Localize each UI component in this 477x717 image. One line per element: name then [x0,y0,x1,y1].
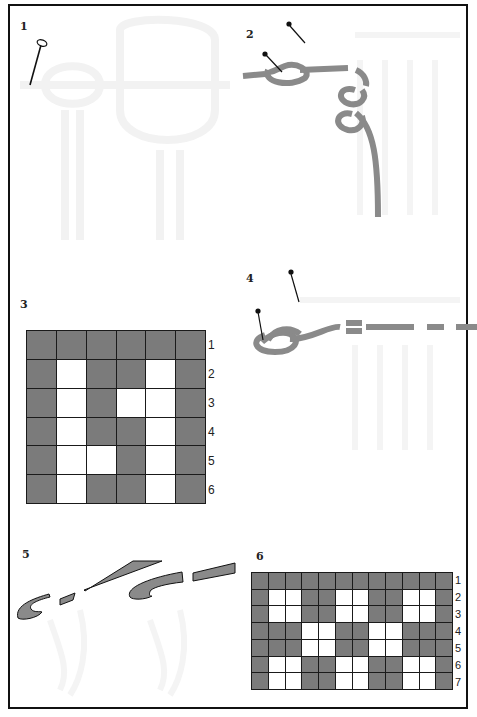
grid-cell [146,446,175,474]
grid-cell [117,360,146,388]
grid-cell [117,475,146,503]
row-label: 1 [208,330,215,359]
grid-cell [117,418,146,446]
grid-cell [319,673,335,689]
grid-cell [252,623,268,639]
row-label: 2 [455,589,461,606]
grid-cell [436,590,452,606]
grid-cell [353,673,369,689]
grid-cell [252,657,268,673]
grid-cell [27,418,56,446]
grid-cell [420,590,436,606]
grid-cell [319,590,335,606]
grid-cell [436,673,452,689]
grid-cell [403,640,419,656]
grid-cell [57,360,86,388]
grid-cell [319,640,335,656]
grid-cell [319,573,335,589]
grid-cell [336,640,352,656]
grid-cell [286,673,302,689]
grid-cell [319,623,335,639]
grid-cell [336,606,352,622]
grid-cell [369,623,385,639]
grid-cell [27,446,56,474]
grid-cell [87,360,116,388]
grid-cell [146,475,175,503]
grid-cell [302,623,318,639]
grid-cell [269,573,285,589]
row-label: 5 [455,639,461,656]
panel-label-4: 4 [246,272,254,285]
grid-cell [269,640,285,656]
grid-cell [353,657,369,673]
row-label: 3 [455,606,461,623]
grid-cell [27,389,56,417]
row-label: 7 [455,673,461,690]
grid-cell [269,623,285,639]
grid-cell [87,446,116,474]
grid-cell [302,606,318,622]
grid-cell [369,673,385,689]
grid-cell [176,475,205,503]
grid-cell [420,573,436,589]
panel-label-5: 5 [22,548,30,561]
grid-cell [436,606,452,622]
knot-diagram-4 [256,323,477,352]
grid-cell [403,590,419,606]
grid-cell [286,623,302,639]
grid-cell [420,657,436,673]
grid-cell [57,418,86,446]
grid-cell [176,418,205,446]
grid-cell [286,657,302,673]
grid-cell [420,673,436,689]
grid-cell [336,673,352,689]
grid-cell [269,590,285,606]
grid-cell [252,590,268,606]
grid-cell [319,606,335,622]
grid-cell [336,590,352,606]
grid-cell [57,389,86,417]
grid-cell [302,573,318,589]
grid-cell [436,640,452,656]
grid-cell [403,623,419,639]
grid-cell [386,573,402,589]
row-label: 3 [208,388,215,417]
grid-cell [286,640,302,656]
grid-cell [403,606,419,622]
row-label: 5 [208,446,215,475]
pattern-grid-3-row-labels: 123456 [208,330,215,504]
row-label: 4 [208,417,215,446]
grid-cell [87,389,116,417]
row-label: 4 [455,623,461,640]
grid-cell [252,573,268,589]
grid-cell [176,360,205,388]
grid-cell [57,446,86,474]
grid-cell [302,673,318,689]
grid-cell [420,640,436,656]
grid-cell [353,573,369,589]
grid-cell [87,475,116,503]
pattern-grid-6-row-labels: 1234567 [455,572,461,690]
grid-cell [57,331,86,359]
grid-cell [336,623,352,639]
grid-cell [176,446,205,474]
cord-ends-diagram-5 [18,561,235,619]
row-label: 1 [455,572,461,589]
grid-cell [252,640,268,656]
grid-cell [176,331,205,359]
grid-cell [269,606,285,622]
grid-cell [386,590,402,606]
grid-cell [369,657,385,673]
grid-cell [436,573,452,589]
pattern-grid-6 [251,572,453,690]
grid-cell [27,331,56,359]
grid-cell [403,657,419,673]
grid-cell [369,590,385,606]
grid-cell [27,475,56,503]
grid-cell [353,606,369,622]
row-label: 2 [208,359,215,388]
grid-cell [420,623,436,639]
grid-cell [353,640,369,656]
grid-cell [369,606,385,622]
ghost-macrame-background-1 [20,20,230,240]
